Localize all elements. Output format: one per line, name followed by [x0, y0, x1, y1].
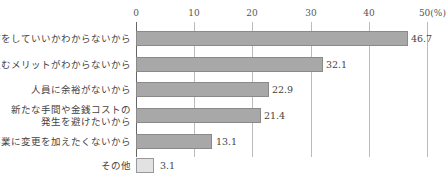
- value-label: 22.9: [272, 84, 293, 95]
- tick-10: 10: [188, 8, 199, 18]
- bar: [136, 158, 154, 173]
- value-label: 32.1: [326, 59, 347, 70]
- category-label: その他: [101, 160, 131, 172]
- tick-20: 20: [246, 8, 257, 18]
- bar: [136, 108, 261, 123]
- category-label: 新たな手間や金銭コストの: [11, 104, 131, 116]
- category-label: 取り組むメリットがわからないから: [0, 59, 131, 71]
- value-label: 3.1: [160, 160, 175, 171]
- bar: [136, 134, 212, 149]
- value-label: 21.4: [264, 110, 285, 121]
- category-label: 発生を避けたいから: [41, 116, 131, 128]
- value-label: 46.7: [411, 33, 432, 44]
- bar: [136, 57, 323, 72]
- bar: [136, 82, 269, 97]
- category-label: 何をしていいかわからないから: [0, 33, 131, 45]
- category-label: 事業に変更を加えたくないから: [0, 136, 131, 148]
- tick-0: 0: [133, 8, 139, 18]
- tick-50: 50(%): [419, 8, 446, 18]
- value-label: 13.1: [216, 136, 237, 147]
- category-label: 人員に余裕がないから: [31, 84, 131, 96]
- tick-30: 30: [305, 8, 316, 18]
- tick-40: 40: [363, 8, 374, 18]
- bar: [136, 31, 408, 46]
